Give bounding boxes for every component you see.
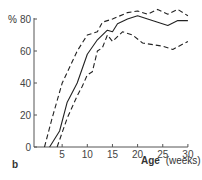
- panel-label: b: [12, 159, 18, 170]
- age-percentage-line-chart: 02040608051015202530 % b Age (weeks): [0, 0, 202, 180]
- x-tick-label: 15: [107, 149, 119, 160]
- x-axis-title-units: (weeks): [166, 155, 201, 166]
- y-axis-label: %: [8, 14, 17, 25]
- series-line-mean: [50, 16, 188, 147]
- series-line-upper-bound: [45, 9, 188, 147]
- series-group: [45, 9, 188, 147]
- x-axis-title: Age (weeks): [141, 155, 201, 166]
- x-tick-label: 10: [82, 149, 94, 160]
- y-tick-label: 20: [20, 110, 32, 121]
- y-tick-label: 0: [25, 142, 31, 153]
- x-axis-title-bold: Age: [141, 155, 160, 166]
- y-tick-label: 80: [20, 14, 32, 25]
- series-line-lower-bound: [57, 32, 188, 147]
- y-tick-label: 60: [20, 46, 32, 57]
- x-tick-label: 5: [59, 149, 65, 160]
- y-tick-label: 40: [20, 78, 32, 89]
